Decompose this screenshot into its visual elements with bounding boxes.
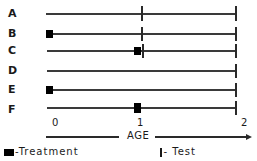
treatment-marker-icon — [134, 47, 141, 55]
age-axis-line-right — [155, 136, 247, 138]
test-tick-icon — [235, 83, 237, 97]
row-label-b: B — [8, 28, 16, 40]
axis-tick-2: 2 — [241, 118, 247, 128]
axis-tick-1: 1 — [137, 118, 143, 128]
timeline-row-d — [47, 70, 236, 72]
treatment-square-icon — [4, 149, 14, 156]
axis-arrow-icon — [246, 134, 252, 140]
legend-treatment: -Treatment — [4, 147, 79, 157]
axis-tick-0: 0 — [52, 118, 58, 128]
test-tick-icon — [141, 27, 143, 41]
experimental-design-diagram: A B C D E F 0 1 2 AGE -Treatment - Test — [0, 0, 257, 161]
test-tick-icon — [235, 101, 237, 115]
test-tick-icon — [235, 44, 237, 58]
legend-test: - Test — [160, 147, 196, 157]
test-tick-icon — [141, 6, 143, 21]
age-axis-line-left — [46, 136, 119, 138]
treatment-marker-icon — [46, 86, 53, 94]
timeline-row-f — [47, 107, 236, 109]
test-tick-icon — [235, 27, 237, 41]
row-label-f: F — [8, 104, 16, 116]
row-label-c: C — [8, 45, 16, 57]
test-tick-icon — [235, 6, 237, 21]
legend-test-label: - Test — [164, 146, 196, 157]
row-label-d: D — [8, 65, 17, 77]
test-tick-icon — [142, 44, 144, 58]
row-label-a: A — [8, 8, 17, 20]
legend-treatment-label: -Treatment — [15, 146, 79, 157]
row-label-e: E — [8, 84, 16, 96]
test-tick-icon — [235, 64, 237, 78]
treatment-marker-icon — [46, 30, 53, 38]
treatment-marker-icon — [134, 103, 141, 113]
timeline-row-e — [46, 89, 236, 91]
test-tick-legend-icon — [160, 148, 162, 157]
age-axis-label: AGE — [127, 131, 149, 141]
